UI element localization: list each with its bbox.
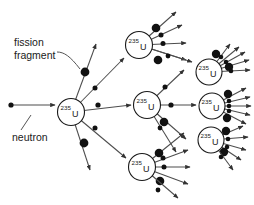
fission-chain-reaction-figure: 235 U 235 U 235 U 235 U 235 U	[0, 0, 254, 205]
fission-fragment-particle	[154, 56, 163, 65]
neutron-particle	[168, 102, 173, 107]
nucleus-symbol: U	[143, 164, 150, 174]
incoming-neutron-group	[8, 102, 55, 107]
neutron-leader-line	[21, 115, 31, 130]
nucleus-symbol: U	[148, 102, 155, 112]
neutron-particle	[95, 102, 100, 107]
fission-fragment-label-line2: fragment	[14, 49, 56, 61]
fission-fragment-particle	[156, 177, 165, 186]
nucleus-circle	[134, 92, 161, 119]
fission-fragment-leader-line	[57, 52, 80, 69]
neutron-particle	[219, 155, 224, 160]
neutron-particle	[161, 156, 166, 161]
neutron-particle	[229, 69, 234, 74]
nucleus-mass-number: 235	[137, 97, 148, 104]
nucleus-symbol: U	[213, 103, 220, 113]
neutron-label: neutron	[12, 131, 48, 143]
nucleus-mass-number: 235	[199, 64, 210, 71]
neutron-particle	[93, 86, 98, 91]
neutron-particle	[156, 188, 161, 193]
chain-reaction-svg: 235 U 235 U 235 U 235 U 235 U	[0, 0, 254, 205]
annotation-texts: fission fragment neutron	[12, 36, 56, 143]
neutron-particle	[161, 41, 166, 46]
nucleus-gen3-c: 235 U	[198, 127, 224, 153]
fission-fragment-particle	[81, 68, 90, 77]
fission-fragment-particle	[152, 24, 161, 33]
nucleus-gen2-b: 235 U	[134, 92, 161, 119]
nucleus-circle	[199, 93, 225, 119]
nucleus-symbol: U	[72, 109, 79, 119]
nucleus-mass-number: 235	[132, 159, 143, 166]
neutron-particle	[163, 85, 168, 90]
nucleus-symbol: U	[140, 42, 147, 52]
neutron-particle	[227, 104, 232, 109]
fission-fragment-particle	[223, 114, 231, 122]
nucleus-circle	[58, 99, 85, 126]
nucleus-gen3-b: 235 U	[199, 93, 225, 119]
nucleus-circle	[129, 154, 156, 181]
neutron-particle	[93, 126, 98, 131]
neutron-particle	[166, 54, 171, 59]
nucleus-symbol: U	[210, 69, 217, 79]
nucleus-mass-number: 235	[202, 98, 213, 105]
neutron-particle	[162, 165, 167, 170]
nuclei-group: 235 U 235 U 235 U 235 U 235 U	[58, 32, 226, 181]
neutron-particle	[227, 109, 232, 114]
neutron-particle	[219, 55, 224, 60]
nucleus-gen3-a: 235 U	[196, 59, 222, 85]
neutron-particle	[8, 102, 13, 107]
fission-fragment-particle	[80, 139, 89, 148]
nucleus-mass-number: 235	[201, 132, 212, 139]
nucleus-mass-number: 235	[129, 37, 140, 44]
neutron-particle	[158, 126, 163, 131]
nucleus-symbol: U	[212, 137, 219, 147]
neutron-particle	[227, 99, 232, 104]
nucleus-gen2-a: 235 U	[126, 32, 153, 59]
neutron-particle	[159, 33, 164, 38]
fission-fragment-label-line1: fission	[14, 36, 44, 48]
nucleus-gen2-c: 235 U	[129, 154, 156, 181]
nucleus-circle	[196, 59, 222, 85]
nucleus-gen1-a: 235 U	[58, 99, 85, 126]
neutron-particle	[226, 137, 231, 142]
nucleus-circle	[198, 127, 224, 153]
fission-fragment-particle	[224, 90, 232, 98]
nucleus-mass-number: 235	[61, 104, 72, 111]
nucleus-circle	[126, 32, 153, 59]
fission-fragment-particle	[160, 118, 169, 127]
